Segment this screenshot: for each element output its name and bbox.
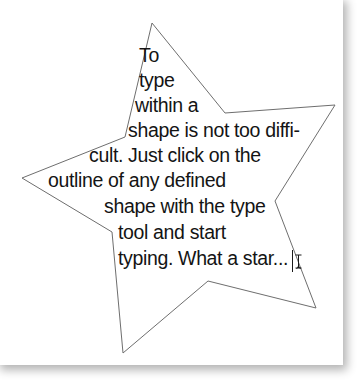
text-line: typing. What a star... — [118, 248, 288, 268]
type-on-shape-text[interactable]: To type within a shape is not too diffi-… — [0, 0, 363, 384]
text-line: shape is not too diffi- — [128, 120, 300, 140]
text-line: To — [139, 45, 159, 65]
text-line: shape with the type — [104, 196, 265, 216]
text-line: within a — [135, 95, 198, 115]
artboard[interactable]: To type within a shape is not too diffi-… — [0, 0, 363, 384]
text-line: type — [139, 70, 174, 90]
text-line: outline of any defined — [48, 170, 226, 190]
screenshot-root: To type within a shape is not too diffi-… — [0, 0, 363, 384]
text-line: tool and start — [118, 222, 226, 242]
text-ibeam-cursor — [294, 254, 303, 269]
text-line: cult. Just click on the — [89, 145, 261, 165]
text-caret — [292, 250, 293, 272]
